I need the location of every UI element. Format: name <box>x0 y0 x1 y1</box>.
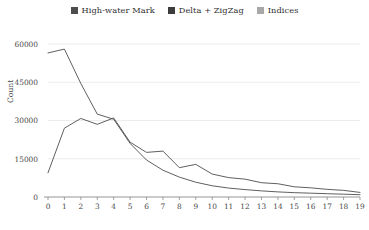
x-tick-label: 19 <box>353 202 367 211</box>
y-tick-label: 60000 <box>4 40 38 49</box>
x-tick-label: 8 <box>172 202 186 211</box>
x-tick-label: 6 <box>140 202 154 211</box>
x-tick-label: 2 <box>74 202 88 211</box>
x-tick-label: 1 <box>57 202 71 211</box>
gridlines <box>48 44 360 159</box>
x-tick-label: 10 <box>205 202 219 211</box>
plot-area: Count 015000300004500060000 012345678910… <box>0 0 369 230</box>
series-line <box>48 49 360 195</box>
y-tick-label: 30000 <box>4 116 38 125</box>
x-tick-label: 17 <box>320 202 334 211</box>
x-tick-label: 15 <box>287 202 301 211</box>
series-line <box>48 118 360 192</box>
chart-svg <box>0 0 369 230</box>
x-tick-label: 11 <box>222 202 236 211</box>
series-lines <box>48 49 360 195</box>
x-tick-label: 7 <box>156 202 170 211</box>
y-tick-label: 15000 <box>4 155 38 164</box>
x-tick-label: 18 <box>337 202 351 211</box>
x-tick-label: 12 <box>238 202 252 211</box>
x-tick-label: 14 <box>271 202 285 211</box>
y-tick-label: 0 <box>4 193 38 202</box>
x-tick-label: 16 <box>304 202 318 211</box>
x-tick-label: 0 <box>41 202 55 211</box>
x-tick-label: 5 <box>123 202 137 211</box>
y-tick-label: 45000 <box>4 78 38 87</box>
x-tick-label: 3 <box>90 202 104 211</box>
x-tick-label: 9 <box>189 202 203 211</box>
x-tick-label: 4 <box>107 202 121 211</box>
chart-container: High-water Mark Delta + ZigZag Indices C… <box>0 0 369 230</box>
x-tick-label: 13 <box>254 202 268 211</box>
